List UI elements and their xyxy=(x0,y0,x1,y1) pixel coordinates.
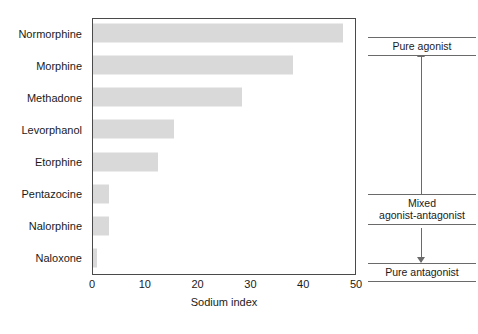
category-label-levorphanol: Levorphanol xyxy=(21,124,82,136)
bar-methadone xyxy=(93,88,242,107)
annotation-pure-agonist: Pure agonist xyxy=(368,37,476,56)
bar-levorphanol xyxy=(93,120,174,139)
annotation-pure-antagonist: Pure antagonist xyxy=(368,263,476,282)
bar-naloxone xyxy=(93,248,97,267)
bar-normorphine xyxy=(93,24,343,43)
category-label-etorphine: Etorphine xyxy=(35,156,82,168)
annotation-mixed-label-line2: agonist-antagonist xyxy=(368,209,476,221)
category-label-normorphine: Normorphine xyxy=(18,28,82,40)
x-tick-0: 0 xyxy=(89,278,95,290)
category-axis-labels: Normorphine Morphine Methadone Levorphan… xyxy=(0,18,88,275)
classification-annotations: Pure agonist Mixed agonist-antagonist Pu… xyxy=(368,18,476,280)
bar-nalorphine xyxy=(93,216,109,235)
category-label-morphine: Morphine xyxy=(36,60,82,72)
category-label-pentazocine: Pentazocine xyxy=(21,188,82,200)
x-axis-title: Sodium index xyxy=(92,296,356,309)
annotation-mixed-agonist-antagonist: Mixed agonist-antagonist xyxy=(368,194,476,225)
pure-agonist-to-mixed-arrow-line xyxy=(421,56,422,210)
category-label-naloxone: Naloxone xyxy=(36,252,82,264)
sodium-index-bar-chart: Normorphine Morphine Methadone Levorphan… xyxy=(0,0,478,334)
bars-container xyxy=(93,19,355,274)
annotation-pure-antagonist-label: Pure antagonist xyxy=(385,266,459,278)
x-tick-10: 10 xyxy=(139,278,151,290)
category-label-nalorphine: Nalorphine xyxy=(29,220,82,232)
bar-etorphine xyxy=(93,152,158,171)
x-tick-50: 50 xyxy=(350,278,362,290)
plot-area xyxy=(92,18,356,275)
x-tick-40: 40 xyxy=(297,278,309,290)
x-tick-30: 30 xyxy=(244,278,256,290)
category-label-methadone: Methadone xyxy=(27,92,82,104)
bar-morphine xyxy=(93,56,293,75)
annotation-mixed-label-line1: Mixed xyxy=(368,197,476,209)
annotation-pure-agonist-label: Pure agonist xyxy=(393,40,452,52)
bar-pentazocine xyxy=(93,184,109,203)
x-tick-20: 20 xyxy=(191,278,203,290)
x-axis-ticks: 0 10 20 30 40 50 xyxy=(92,275,356,297)
